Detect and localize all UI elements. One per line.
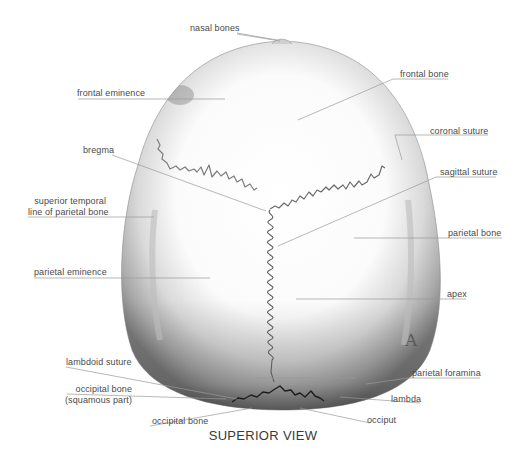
panel-letter: A	[405, 330, 417, 350]
label-occipital-bone: occipital bone	[152, 416, 208, 427]
anatomy-figure: nasal bones frontal eminence frontal bon…	[0, 0, 526, 457]
label-frontal-bone: frontal bone	[400, 69, 449, 80]
label-superior-temporal-line-2: line of parietal bone	[28, 207, 106, 218]
label-parietal-bone: parietal bone	[448, 228, 501, 239]
figure-caption: SUPERIOR VIEW	[0, 428, 526, 443]
label-superior-temporal-line: superior temporal line of parietal bone	[28, 196, 106, 218]
label-lambdoid-suture: lambdoid suture	[66, 357, 132, 368]
label-occipital-bone-squamous: occipital bone (squamous part)	[62, 384, 132, 406]
label-bregma: bregma	[83, 145, 114, 156]
label-occipital-bone-squamous-2: (squamous part)	[62, 395, 132, 406]
label-nasal-bones: nasal bones	[190, 23, 240, 34]
label-occipital-bone-squamous-1: occipital bone	[62, 384, 132, 395]
label-frontal-eminence: frontal eminence	[77, 88, 145, 99]
label-parietal-foramina: parietal foramina	[412, 368, 481, 379]
label-lambda: lambda	[391, 394, 421, 405]
label-sagittal-suture: sagittal suture	[440, 167, 498, 178]
label-occiput: occiput	[367, 415, 396, 426]
label-superior-temporal-line-1: superior temporal	[28, 196, 106, 207]
skull-body	[100, 39, 460, 420]
label-coronal-suture: coronal suture	[430, 126, 488, 137]
label-apex: apex	[447, 289, 467, 300]
label-parietal-eminence: parietal eminence	[34, 267, 107, 278]
